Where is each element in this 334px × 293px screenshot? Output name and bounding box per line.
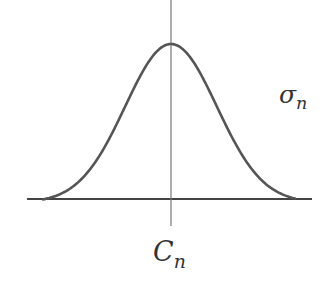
c-n-label: Cn: [153, 236, 186, 267]
sigma-subscript: n: [296, 93, 307, 113]
c-subscript: n: [174, 250, 186, 272]
c-symbol: C: [153, 236, 174, 267]
sigma-n-label: σn: [279, 80, 307, 109]
sigma-symbol: σ: [279, 80, 296, 109]
gaussian-curve: [43, 44, 295, 199]
